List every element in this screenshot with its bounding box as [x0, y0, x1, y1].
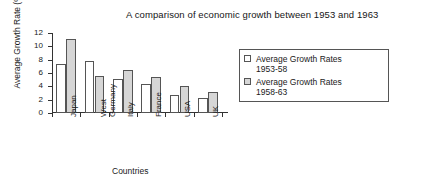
category-label: Japan: [69, 95, 78, 117]
bar-chart-figure: A comparison of economic growth between …: [0, 0, 437, 187]
legend-label-series-1: Average Growth Rates 1953-58: [256, 54, 342, 74]
x-tick: [222, 113, 223, 117]
legend-label-line1: Average Growth Rates: [256, 77, 342, 87]
category-label-part: Germany: [108, 84, 117, 117]
category-label-part: West: [99, 99, 108, 117]
category-label: UK: [211, 106, 220, 117]
bar: [56, 64, 66, 113]
legend-swatch-series-1: [244, 55, 251, 62]
x-tick: [52, 113, 53, 117]
chart-title: A comparison of economic growth between …: [126, 9, 378, 20]
x-tick: [194, 113, 195, 117]
legend-swatch-series-2: [244, 78, 251, 85]
legend-label-line2: 1953-58: [256, 64, 287, 74]
x-tick: [165, 113, 166, 117]
category-label: Italy: [126, 102, 135, 117]
bar: [141, 84, 151, 113]
y-tick-label: 8: [39, 55, 43, 64]
y-axis-label: Average Growth Rate (%): [12, 0, 22, 95]
x-tick: [137, 113, 138, 117]
legend-label-series-2: Average Growth Rates 1958-63: [256, 77, 342, 97]
y-tick-label: 4: [39, 81, 43, 90]
legend-item: Average Growth Rates 1958-63: [244, 77, 383, 97]
legend-item: Average Growth Rates 1953-58: [244, 54, 383, 74]
category-label: USA: [183, 101, 192, 117]
bar: [198, 98, 208, 113]
legend-label-line1: Average Growth Rates: [256, 54, 342, 64]
bar: [85, 61, 95, 113]
y-tick-label: 10: [34, 41, 43, 50]
bar: [170, 95, 180, 113]
category-label: France: [154, 92, 163, 117]
y-tick-label: 0: [39, 108, 43, 117]
x-axis-label: Countries: [112, 166, 148, 176]
y-tick-label: 12: [34, 28, 43, 37]
category-label: WestGermany: [99, 84, 117, 117]
y-tick-label: 2: [39, 95, 43, 104]
legend-label-line2: 1958-63: [256, 87, 287, 97]
x-tick: [80, 113, 81, 117]
y-tick-label: 6: [39, 68, 43, 77]
chart-legend: Average Growth Rates 1953-58 Average Gro…: [239, 49, 389, 102]
